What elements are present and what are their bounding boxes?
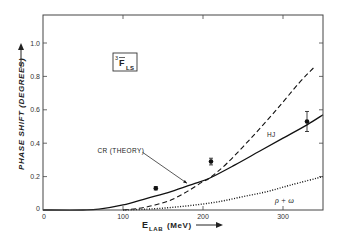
arrow-right-icon	[216, 222, 223, 228]
svg-text:LAB: LAB	[149, 226, 163, 232]
data-point	[209, 159, 214, 164]
x-axis-title: E LAB (MeV)	[142, 220, 223, 232]
y-tick-label: 0	[36, 205, 40, 212]
data-point	[305, 119, 310, 124]
x-tick-label: 0	[42, 213, 46, 220]
annotations: CR (THEORY)HJρ + ω	[97, 131, 294, 206]
x-tick-label: 300	[277, 213, 289, 220]
curve-hj	[123, 66, 315, 210]
annotation-label: ρ + ω	[274, 196, 294, 205]
svg-text:(MeV): (MeV)	[167, 221, 192, 230]
panel-label-letter: F	[119, 58, 125, 68]
arrow-up-icon	[18, 43, 24, 50]
x-tick-label: 100	[117, 213, 129, 220]
y-tick-label: 0.6	[30, 106, 40, 113]
panel-label: 3 F LS	[113, 53, 137, 71]
annotation-label: CR (THEORY)	[97, 147, 144, 155]
y-tick-label: 0.2	[30, 173, 40, 180]
y-axis-title: PHASE SHIFT (DEGREES)	[17, 43, 26, 170]
annotation-label: HJ	[267, 131, 276, 138]
phase-shift-chart: 0.20.40.60.81.000100200300 CR (THEORY)HJ…	[0, 0, 340, 240]
panel-label-subscript: LS	[126, 65, 134, 71]
curves	[43, 66, 323, 210]
x-tick-label: 200	[197, 213, 209, 220]
svg-text:PHASE SHIFT (DEGREES): PHASE SHIFT (DEGREES)	[17, 58, 26, 170]
y-tick-label: 1.0	[30, 40, 40, 47]
data-point	[154, 186, 159, 191]
y-tick-label: 0.8	[30, 73, 40, 80]
y-tick-label: 0.4	[30, 140, 40, 147]
panel-label-superscript: 3	[115, 55, 118, 61]
arrow-icon	[183, 180, 187, 183]
svg-text:E: E	[142, 220, 149, 230]
data-points	[154, 111, 310, 190]
